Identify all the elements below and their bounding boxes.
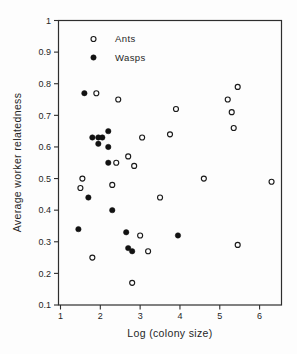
y-tick-label: 0.5 [38,174,51,184]
legend-ants-label: Ants [115,33,136,44]
data-point-wasps [90,135,95,140]
y-tick-label: 0.1 [38,300,51,310]
y-tick-label: 0.7 [38,111,51,121]
data-point-ants [269,179,274,184]
data-point-ants [140,135,145,140]
legend-wasps-marker-icon [91,55,96,60]
x-tick-label: 2 [98,311,103,321]
data-point-wasps [82,91,87,96]
plot-frame [59,21,282,306]
x-tick-label: 3 [138,311,143,321]
data-point-wasps [106,128,111,133]
y-tick-label: 0.8 [38,79,51,89]
axes-layer: 12345610.90.80.70.60.50.40.30.20.1 [38,16,262,321]
data-point-ants [116,97,121,102]
legend: Ants Wasps [91,33,146,63]
data-point-wasps [175,233,180,238]
data-point-ants [173,107,178,112]
y-tick-label: 0.4 [38,205,51,215]
data-point-ants [225,97,230,102]
data-point-wasps [86,195,91,200]
data-point-ants [235,84,240,89]
x-axis-title: Log (colony size) [127,327,212,339]
data-point-ants [146,249,151,254]
data-point-ants [90,255,95,260]
data-point-ants [94,91,99,96]
data-point-wasps [123,230,128,235]
x-tick-label: 5 [217,311,222,321]
data-point-ants [231,125,236,130]
data-point-ants [80,176,85,181]
data-point-ants [138,233,143,238]
data-points-layer [76,84,274,285]
y-axis-title: Average worker relatedness [11,93,23,233]
data-point-ants [114,160,119,165]
data-point-ants [126,154,131,159]
data-point-ants [168,132,173,137]
data-point-wasps [110,207,115,212]
legend-ants-marker-icon [91,37,96,42]
scatter-plot-figure: 12345610.90.80.70.60.50.40.30.20.1 Ants … [0,0,297,354]
data-point-ants [201,176,206,181]
data-point-ants [158,195,163,200]
y-tick-label: 0.9 [38,47,51,57]
x-tick-label: 4 [177,311,182,321]
data-point-ants [110,182,115,187]
y-tick-label: 0.6 [38,142,51,152]
data-point-ants [132,163,137,168]
data-point-ants [78,186,83,191]
x-tick-label: 6 [257,311,262,321]
y-tick-label: 1 [46,16,51,26]
data-point-wasps [76,226,81,231]
data-point-wasps [106,144,111,149]
data-point-wasps [106,160,111,165]
data-point-ants [130,280,135,285]
relatedness-vs-colony-size-chart: 12345610.90.80.70.60.50.40.30.20.1 Ants … [0,0,297,354]
data-point-wasps [129,249,134,254]
data-point-ants [235,242,240,247]
x-tick-label: 1 [58,311,63,321]
data-point-ants [229,110,234,115]
data-point-wasps [100,135,105,140]
data-point-wasps [96,141,101,146]
y-tick-label: 0.3 [38,237,51,247]
y-tick-label: 0.2 [38,269,51,279]
legend-wasps-label: Wasps [115,52,146,63]
